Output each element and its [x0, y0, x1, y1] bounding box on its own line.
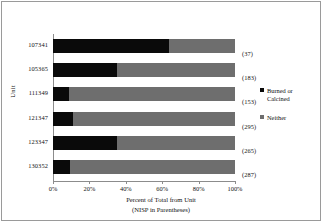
x-axis-tick — [53, 181, 54, 184]
bar-segment-neither — [70, 160, 235, 174]
category-label: 130352 — [28, 162, 48, 169]
category-label: 111349 — [29, 89, 48, 96]
y-axis-title: Unit — [9, 64, 16, 120]
category-label: 123347 — [28, 138, 48, 145]
chart-figure: Unit 107341(37)105365(183)111349(153)121… — [1, 1, 321, 221]
legend-item: Neither — [260, 114, 320, 122]
bar-segment-neither — [169, 39, 235, 53]
legend-swatch-icon — [260, 115, 264, 119]
stacked-bar — [53, 87, 235, 101]
x-axis-line — [53, 181, 236, 182]
bar-row: 105365(183) — [53, 63, 235, 77]
bar-segment-burned-or-calcined — [53, 160, 70, 174]
x-axis-tick-label: 100% — [223, 185, 247, 192]
x-axis-tick-label: 40% — [114, 185, 138, 192]
nisp-label: (183) — [242, 74, 256, 81]
stacked-bar — [53, 112, 235, 126]
bar-row: 111349(153) — [53, 87, 235, 101]
nisp-label: (287) — [242, 171, 256, 178]
legend-label: Burned orCalcined — [267, 87, 293, 103]
x-axis-title-line1: Percent of Total from Unit — [2, 195, 320, 205]
bar-row: 121347(295) — [53, 112, 235, 126]
legend-swatch-icon — [260, 88, 264, 92]
plot-area: 107341(37)105365(183)111349(153)121347(2… — [53, 34, 235, 179]
chart-legend: Burned orCalcinedNeither — [260, 87, 320, 133]
x-axis-tick — [235, 181, 236, 184]
bar-segment-neither — [117, 136, 235, 150]
bar-segment-neither — [117, 63, 235, 77]
x-axis-tick — [162, 181, 163, 184]
bar-row: 123347(265) — [53, 136, 235, 150]
category-label: 105365 — [28, 65, 48, 72]
category-label: 121347 — [28, 114, 48, 121]
legend-label: Neither — [267, 114, 286, 122]
bar-row: 107341(37) — [53, 39, 235, 53]
bar-segment-neither — [73, 112, 235, 126]
stacked-bar — [53, 63, 235, 77]
x-axis-title-line2: (NISP in Parentheses) — [2, 205, 320, 215]
x-axis-tick — [89, 181, 90, 184]
x-axis-title: Percent of Total from Unit (NISP in Pare… — [2, 195, 320, 214]
x-axis-tick — [199, 181, 200, 184]
stacked-bar — [53, 136, 235, 150]
bar-segment-burned-or-calcined — [53, 87, 69, 101]
stacked-bar — [53, 39, 235, 53]
bar-segment-burned-or-calcined — [53, 112, 73, 126]
nisp-label: (37) — [242, 50, 253, 57]
bar-segment-neither — [69, 87, 235, 101]
legend-item: Burned orCalcined — [260, 87, 320, 103]
x-axis-tick-label: 20% — [77, 185, 101, 192]
category-label: 107341 — [28, 41, 48, 48]
x-axis-tick-label: 60% — [150, 185, 174, 192]
nisp-label: (295) — [242, 123, 256, 130]
nisp-label: (153) — [242, 98, 256, 105]
bar-segment-burned-or-calcined — [53, 63, 117, 77]
stacked-bar — [53, 160, 235, 174]
bar-segment-burned-or-calcined — [53, 136, 117, 150]
bar-row: 130352(287) — [53, 160, 235, 174]
x-axis-tick-label: 0% — [41, 185, 65, 192]
bar-segment-burned-or-calcined — [53, 39, 169, 53]
x-axis-tick-label: 80% — [187, 185, 211, 192]
x-axis-tick — [126, 181, 127, 184]
nisp-label: (265) — [242, 147, 256, 154]
